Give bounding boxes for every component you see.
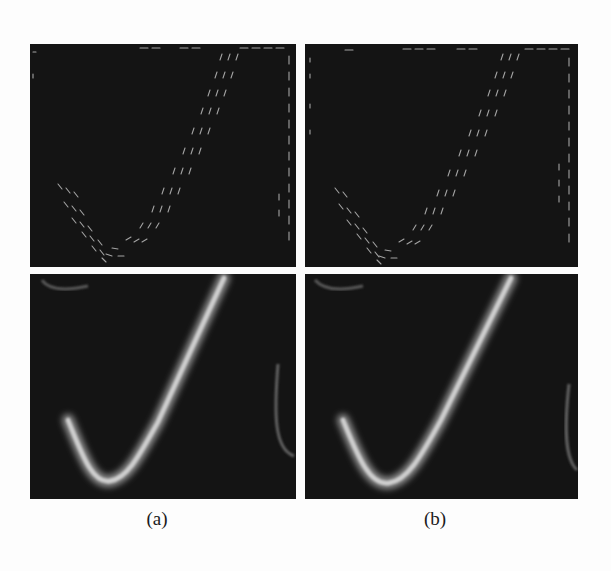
panel-b-vector-field — [305, 44, 578, 267]
vector-field-icon — [305, 44, 578, 267]
panel-a-stroke-rendering — [30, 274, 296, 499]
brush-stroke-icon — [305, 274, 578, 499]
vector-field-icon — [30, 44, 296, 267]
panel-a-vector-field — [30, 44, 296, 267]
caption-b: (b) — [424, 508, 446, 530]
brush-stroke-icon — [30, 274, 296, 499]
caption-a: (a) — [146, 508, 167, 530]
panel-b-stroke-rendering — [305, 274, 578, 499]
